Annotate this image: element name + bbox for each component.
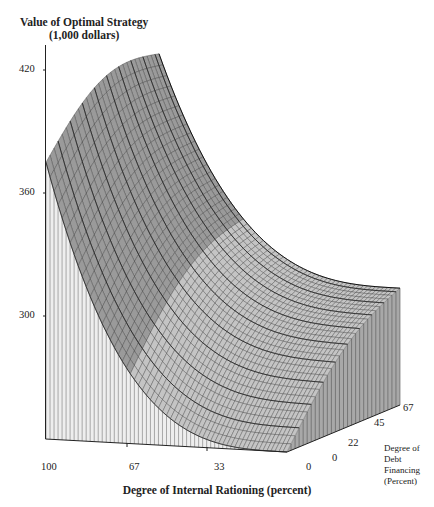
- y-axis-title-line-3: Financing: [384, 465, 420, 476]
- y-axis-title: Degree of Debt Financing (Percent): [384, 443, 420, 487]
- z-tick-label-300: 300: [19, 309, 35, 320]
- x-axis-title: Degree of Internal Rationing (percent): [0, 484, 434, 496]
- title-line-1: Value of Optimal Strategy: [20, 16, 148, 29]
- x-tick-label-67: 67: [129, 461, 140, 472]
- x-tick-label-100: 100: [41, 461, 57, 472]
- x-tick-label-33: 33: [214, 461, 225, 472]
- y-tick-label-67: 67: [403, 402, 414, 413]
- y-axis-title-line-1: Degree of: [384, 443, 420, 454]
- x-tick-label-0: 0: [306, 461, 311, 472]
- title-line-2: (1,000 dollars): [20, 29, 148, 42]
- z-tick-label-420: 420: [19, 63, 35, 74]
- z-tick-label-360: 360: [19, 186, 35, 197]
- y-axis-title-line-2: Debt: [384, 454, 420, 465]
- y-tick-label-0: 0: [332, 452, 337, 463]
- surface-plot: [0, 0, 434, 507]
- chart-title: Value of Optimal Strategy (1,000 dollars…: [20, 16, 148, 42]
- y-tick-label-22: 22: [348, 437, 359, 448]
- y-tick-label-45: 45: [374, 417, 385, 428]
